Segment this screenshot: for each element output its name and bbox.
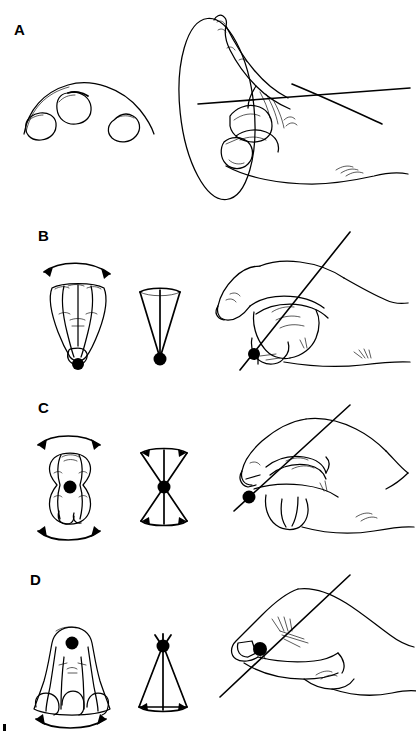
panel-a: A [0,0,416,210]
pivot-dot [253,642,267,656]
panel-c-middle-diagram [131,443,197,531]
corner-registration-tick [3,724,6,731]
panel-d-right-diagram [200,569,416,719]
pivot-dot [243,491,256,504]
panel-c-right-diagram [210,399,416,549]
pivot-dot [66,637,79,650]
figure-root: A [0,0,416,733]
pivot-dot [248,348,260,360]
pivot-dot [64,481,77,494]
panel-c-left-diagram [26,427,116,547]
panel-d-middle-diagram [130,633,196,719]
panel-d: D [0,555,416,733]
panel-label-d: D [30,572,41,587]
panel-b-middle-diagram [132,282,190,370]
panel-a-left-diagram [18,72,158,142]
panel-b-left-diagram [34,258,120,374]
panel-d-left-diagram [26,613,118,731]
panel-a-right-diagram [160,8,412,204]
pivot-dot [157,640,170,653]
panel-c: C [0,385,416,560]
pivot-dot [72,358,84,370]
panel-label-b: B [38,228,49,243]
panel-b: B [0,210,416,385]
pivot-dot [158,481,171,494]
pivot-dot [154,353,167,366]
panel-label-c: C [38,400,49,415]
panel-label-a: A [14,22,25,37]
panel-b-right-diagram [196,228,412,380]
